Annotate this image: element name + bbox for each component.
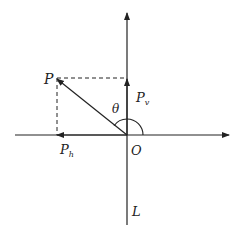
label-origin: O xyxy=(131,143,142,158)
label-horizontal-component: Ph xyxy=(59,142,74,159)
label-axis-l: L xyxy=(131,204,141,219)
label-angle-theta: θ xyxy=(112,102,120,116)
label-point-p: P xyxy=(43,71,54,87)
force-decomposition-diagram: P Pv Ph θ O L xyxy=(0,0,240,234)
angle-theta-arc xyxy=(114,119,143,135)
label-vertical-component: Pv xyxy=(135,90,150,107)
